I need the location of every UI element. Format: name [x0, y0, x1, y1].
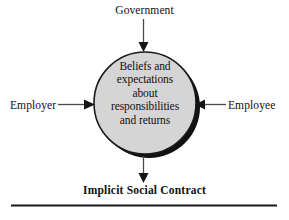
outcome-arrow [139, 156, 149, 183]
employer-arrow [58, 100, 95, 110]
center-text-line-4: responsibilities [95, 100, 195, 113]
center-circle-text: Beliefs and expectations about responsib… [95, 60, 195, 127]
outcome-label: Implicit Social Contract [0, 184, 289, 196]
input-label-employee: Employee [228, 99, 275, 111]
center-text-line-5: and returns [95, 114, 195, 127]
center-text-line-3: about [95, 87, 195, 100]
input-label-government: Government [0, 4, 289, 16]
implicit-social-contract-diagram: Government Employer Employee Beliefs and… [0, 0, 289, 220]
input-label-employer: Employer [10, 99, 56, 111]
center-text-line-1: Beliefs and [95, 60, 195, 73]
center-text-line-2: expectations [95, 73, 195, 86]
government-arrow [139, 19, 149, 52]
